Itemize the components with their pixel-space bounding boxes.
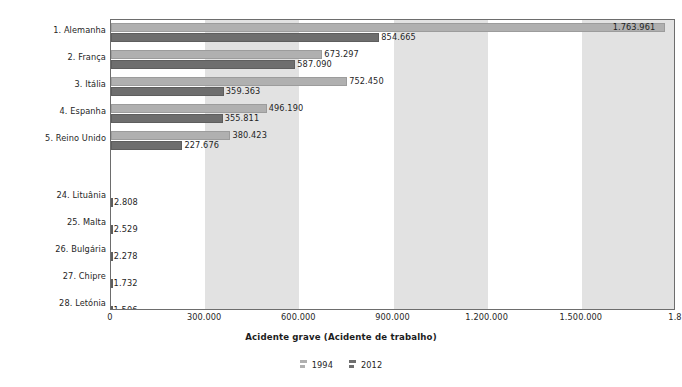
x-tick-label: 900.000: [375, 313, 410, 322]
background-band: [582, 20, 675, 309]
bar-value-label: 380.423: [232, 131, 267, 140]
bar-2012-2: [111, 87, 224, 96]
bar-2012-4: [111, 141, 182, 150]
bar-value-label: 496.190: [269, 104, 304, 113]
x-axis-title: Acidente grave (Acidente de trabalho): [0, 332, 682, 342]
x-tick-label: 600.000: [281, 313, 316, 322]
plot-area: 1.763.961673.297752.450496.190380.423854…: [110, 19, 675, 310]
bar-value-label: 1.732: [114, 279, 138, 288]
bar-value-label: 587.090: [297, 60, 332, 69]
legend-label: 2012: [361, 360, 382, 370]
bar-2012-7: [111, 252, 113, 261]
bar-1994-0: [111, 23, 665, 32]
bar-value-label: 355.811: [225, 114, 260, 123]
category-axis-labels: 1. Alemanha2. França3. Itália4. Espanha5…: [0, 18, 106, 310]
category-label: 1. Alemanha: [0, 26, 106, 35]
bar-1994-4: [111, 131, 230, 140]
x-tick-label: 0: [107, 313, 112, 322]
legend-item-2012[interactable]: 2012: [349, 360, 382, 370]
legend-swatch-icon: [349, 360, 356, 370]
bar-value-label: 854.665: [381, 33, 416, 42]
bar-chart: 1. Alemanha2. França3. Itália4. Espanha5…: [0, 0, 682, 387]
legend-item-1994[interactable]: 1994: [300, 360, 333, 370]
bar-1994-1: [111, 50, 322, 59]
category-label: 26. Bulgária: [0, 245, 106, 254]
bar-value-label: 227.676: [184, 141, 219, 150]
x-tick-label: 1.500.000: [560, 313, 603, 322]
bar-value-label: 359.363: [226, 87, 261, 96]
category-label: 3. Itália: [0, 80, 106, 89]
background-band: [394, 20, 488, 309]
bar-1994-3: [111, 104, 267, 113]
category-label: 5. Reino Unido: [0, 134, 106, 143]
x-tick-label: 1.200.000: [465, 313, 508, 322]
bar-2012-3: [111, 114, 223, 123]
bar-1994-2: [111, 77, 347, 86]
bar-value-label: 1.763.961: [613, 23, 656, 32]
bar-2012-5: [111, 198, 113, 207]
bar-2012-6: [111, 225, 113, 234]
bar-value-label: 673.297: [324, 50, 359, 59]
category-label: 25. Malta: [0, 218, 106, 227]
category-label: 4. Espanha: [0, 107, 106, 116]
x-axis-ticks: 0300.000600.000900.0001.200.0001.500.000…: [110, 310, 675, 330]
legend-label: 1994: [312, 360, 333, 370]
bar-2012-0: [111, 33, 379, 42]
category-label: 27. Chipre: [0, 272, 106, 281]
category-label: 24. Lituânia: [0, 191, 106, 200]
bar-value-label: 2.278: [114, 252, 138, 261]
bar-2012-1: [111, 60, 295, 69]
bar-value-label: 752.450: [349, 77, 384, 86]
bar-value-label: 2.529: [114, 225, 138, 234]
x-tick-label: 1.8: [668, 313, 681, 322]
chart-legend: 19942012: [0, 360, 682, 370]
category-label: 2. França: [0, 53, 106, 62]
legend-swatch-icon: [300, 360, 307, 370]
bar-value-label: 2.808: [114, 198, 138, 207]
x-tick-label: 300.000: [187, 313, 222, 322]
category-label: 28. Letónia: [0, 299, 106, 308]
